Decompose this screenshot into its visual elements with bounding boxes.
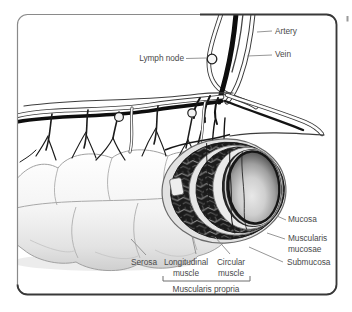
label-longitudinal-muscle-line1: Longitudinal [164, 257, 208, 267]
figure-canvas: Artery Vein Lymph node Mucosa Muscularis… [0, 0, 352, 312]
blood-vessels [16, 14, 324, 162]
leader-artery [257, 31, 272, 32]
figure-page: Artery Vein Lymph node Mucosa Muscularis… [0, 0, 352, 312]
label-serosa: Serosa [131, 257, 157, 267]
label-muscularis-propria: Muscularis propria [173, 284, 240, 294]
label-circular-muscle-line1: Circular [217, 257, 245, 267]
label-lymph-node: Lymph node [139, 53, 184, 63]
leader-vein [247, 55, 272, 56]
label-muscularis-mucosae-line1: Muscularis [288, 233, 327, 243]
leader-muscularis-mucosae [267, 233, 285, 239]
label-muscularis-mucosae-line2: mucosae [288, 244, 322, 254]
label-mucosa: Mucosa [288, 214, 317, 224]
muscle-tab [169, 177, 184, 196]
label-circular-muscle-line2: muscle [218, 268, 244, 278]
leader-submucosa [249, 247, 283, 262]
label-artery: Artery [275, 26, 298, 36]
edge-fragment [347, 16, 349, 22]
label-longitudinal-muscle-line2: muscle [173, 268, 199, 278]
label-submucosa: Submucosa [287, 257, 331, 267]
leader-lymph-node [186, 58, 206, 59]
lymph-node-shape-left [115, 113, 124, 122]
label-vein: Vein [275, 49, 291, 59]
leader-mucosa [277, 216, 286, 220]
lymph-node-shape [207, 54, 217, 64]
lymph-node-shape-mid [188, 109, 196, 117]
